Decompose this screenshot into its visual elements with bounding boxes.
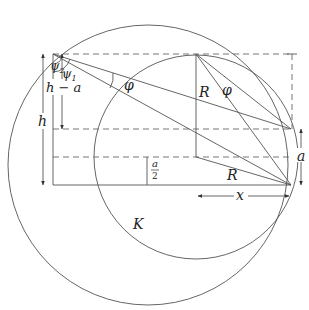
chord-top-upper	[196, 54, 291, 129]
label-K: K	[132, 216, 145, 232]
sight-line-upper	[53, 54, 291, 129]
chord-top-lower	[196, 54, 291, 185]
label-a-half-num: a	[152, 158, 158, 169]
label-a-half-den: 2	[152, 171, 158, 181]
radius-to-lower	[196, 157, 291, 185]
label-psi1: ψ1	[62, 67, 77, 83]
label-x: x	[236, 187, 244, 203]
label-phi-left: φ	[124, 77, 134, 93]
geometry-diagram: h h − a ψ2 ψ1 φ φ R R a a 2 x K	[0, 0, 309, 310]
label-h: h	[38, 113, 47, 129]
label-phi-right: φ	[222, 82, 232, 98]
label-R-bottom: R	[226, 167, 238, 183]
label-a: a	[297, 148, 305, 164]
label-R-top: R	[198, 84, 210, 100]
